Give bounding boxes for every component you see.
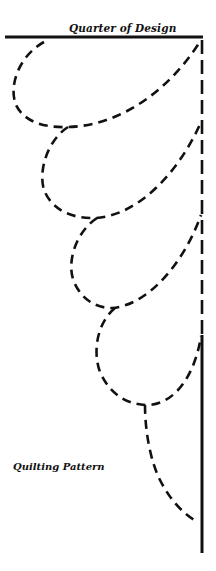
- feather-loop-1: [14, 40, 201, 127]
- feather-loop-3: [71, 215, 201, 308]
- diagram-title: Quarter of Design: [69, 22, 176, 34]
- feather-tail: [145, 405, 198, 522]
- diagram-caption: Quilting Pattern: [13, 461, 105, 472]
- feather-loop-2: [42, 122, 201, 218]
- quilting-pattern-diagram: [0, 0, 216, 571]
- feather-loop-4: [96, 308, 201, 405]
